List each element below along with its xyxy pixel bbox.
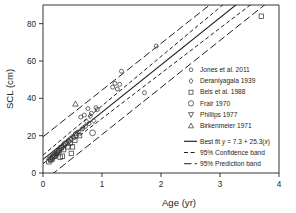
legend-label: Phillips 1977 — [200, 111, 238, 119]
y-axis-title: SCL (cm) — [4, 69, 15, 109]
x-tick-label: 0 — [41, 180, 46, 189]
x-tick-label: 2 — [159, 180, 164, 189]
legend-label: 95% Prediction band — [200, 160, 261, 167]
chart-canvas: 01234 Age (yr) 020406080 SCL (cm) Jones … — [0, 0, 296, 213]
legend-label: Deraniyagala 1939 — [200, 77, 256, 85]
x-tick-label: 3 — [218, 180, 223, 189]
legend-label: 95% Confidence band — [200, 149, 265, 156]
legend-label: Bels et al. 1988 — [200, 88, 246, 95]
x-tick-label: 4 — [277, 180, 282, 189]
legend-label: Jones et al. 2011 — [200, 66, 250, 73]
x-axis-title: Age (yr) — [162, 197, 196, 208]
y-tick-label: 80 — [27, 20, 37, 29]
legend-label: Birkenmeier 1971 — [200, 122, 252, 129]
scatter-plot-figure: 01234 Age (yr) 020406080 SCL (cm) Jones … — [0, 0, 296, 213]
y-tick-label: 20 — [27, 132, 37, 141]
y-tick-label: 60 — [27, 57, 37, 66]
x-tick-label: 1 — [100, 180, 105, 189]
y-tick-label: 0 — [31, 169, 36, 178]
y-tick-label: 40 — [27, 94, 37, 103]
legend-label: Frair 1970 — [200, 100, 230, 107]
legend-label: Best fit y = 7.3 + 25.3(x) — [200, 138, 270, 146]
